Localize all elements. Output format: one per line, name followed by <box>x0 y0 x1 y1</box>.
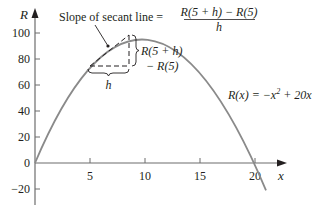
y-tick-label: 20 <box>18 130 30 144</box>
secant-denominator: h <box>216 20 222 34</box>
x-tick-label: 10 <box>139 169 151 183</box>
y-tick-label: 0 <box>24 156 30 170</box>
secant-diagram: 100 80 60 40 20 0 −20 5 10 15 20 R x Slo… <box>0 0 319 213</box>
x-tick-label: 5 <box>87 169 93 183</box>
secant-caption: Slope of secant line = <box>59 10 163 24</box>
rise-label-line2: − R(5) <box>146 59 178 73</box>
secant-numerator: R(5 + h) − R(5) <box>180 5 258 19</box>
y-tick-label: 80 <box>18 52 30 66</box>
rise-label-line1: R(5 + h) <box>140 44 182 58</box>
y-tick-label: 100 <box>12 26 30 40</box>
x-tick-label: 15 <box>194 169 206 183</box>
y-axis-arrow-icon <box>32 8 39 18</box>
x-ticks <box>90 158 255 163</box>
function-label: R(x) = −x2 + 20x <box>227 87 312 102</box>
y-tick-label: 40 <box>18 104 30 118</box>
y-ticks <box>35 33 40 189</box>
pointer-dot-icon <box>106 44 109 47</box>
run-label: h <box>106 78 112 92</box>
y-tick-label: −20 <box>11 182 30 196</box>
run-brace-icon <box>88 69 129 76</box>
x-axis-arrow-icon <box>277 160 287 167</box>
y-axis-label: R <box>19 7 28 22</box>
x-axis-label: x <box>277 168 284 183</box>
y-tick-label: 60 <box>18 78 30 92</box>
caption-pointer <box>95 25 108 46</box>
